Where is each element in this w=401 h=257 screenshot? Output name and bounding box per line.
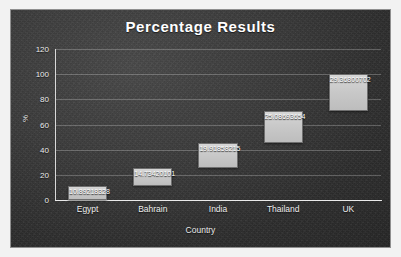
bar[interactable]: 14.73420101	[133, 168, 172, 187]
bar-data-label: 25.08693654	[265, 113, 302, 121]
bar-data-label: 19.91858215	[199, 145, 236, 153]
plot-area: 10.8921832814.7342010119.9185821525.0869…	[55, 49, 381, 200]
y-axis-tick-label: 0	[45, 196, 49, 205]
x-axis-tick-label: UK	[316, 204, 381, 214]
chart-title: Percentage Results	[11, 18, 390, 35]
gridline	[55, 175, 381, 176]
bar-data-label: 29.36800702	[330, 76, 367, 84]
x-axis-title: Country	[11, 225, 390, 235]
y-axis-tick-labels: 020406080100120	[11, 49, 51, 200]
y-axis-tick-label: 20	[40, 170, 49, 179]
x-axis-tick-label: Bahrain	[120, 204, 185, 214]
bar-data-label: 14.73420101	[134, 170, 171, 178]
x-axis-tick-label: Thailand	[251, 204, 316, 214]
x-axis-tick-label: India	[185, 204, 250, 214]
bar[interactable]: 10.89218328	[68, 186, 107, 200]
x-axis-tick-label: Egypt	[55, 204, 120, 214]
y-axis-tick-label: 100	[36, 70, 49, 79]
y-axis-tick-label: 80	[40, 95, 49, 104]
gridline	[55, 49, 381, 50]
y-axis-tick-label: 120	[36, 45, 49, 54]
bar[interactable]: 29.36800702	[329, 74, 368, 111]
gridline	[55, 125, 381, 126]
chart-container: Percentage Results 020406080100120 % 10.…	[10, 9, 391, 248]
bar[interactable]: 25.08693654	[264, 111, 303, 143]
bar[interactable]: 19.91858215	[198, 143, 237, 168]
y-axis-title: %	[21, 115, 30, 122]
gridline	[55, 200, 381, 201]
y-axis-tick-label: 40	[40, 145, 49, 154]
y-axis-tick-label: 60	[40, 120, 49, 129]
bar-data-label: 10.89218328	[69, 188, 106, 196]
